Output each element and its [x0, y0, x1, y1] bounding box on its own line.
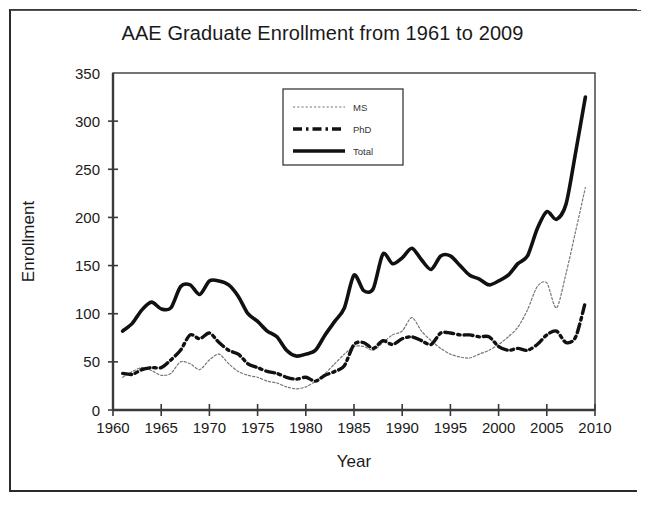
x-tick-label: 2000: [482, 419, 515, 436]
y-tick-label: 350: [75, 65, 100, 82]
legend-label-phd: PhD: [353, 124, 372, 135]
y-tick-label: 50: [83, 353, 100, 370]
y-tick-label: 200: [75, 209, 100, 226]
y-tick-label: 300: [75, 113, 100, 130]
x-tick-label: 1960: [96, 419, 129, 436]
y-tick-label: 100: [75, 305, 100, 322]
x-tick-label: 1990: [386, 419, 419, 436]
legend-label-total: Total: [353, 146, 373, 157]
legend-label-ms: MS: [353, 102, 367, 113]
y-tick-label: 0: [92, 402, 100, 419]
y-axis-ticks: 050100150200250300350: [75, 65, 118, 419]
y-tick-label: 150: [75, 257, 100, 274]
x-tick-label: 2005: [530, 419, 563, 436]
legend-box: [283, 89, 403, 165]
x-axis-title: Year: [337, 452, 372, 471]
chart-plot-svg: 050100150200250300350 196019651970197519…: [0, 0, 645, 500]
x-tick-label: 1985: [337, 419, 370, 436]
x-tick-label: 1965: [145, 419, 178, 436]
series-line-phd: [123, 302, 586, 381]
chart-figure: AAE Graduate Enrollment from 1961 to 200…: [0, 0, 645, 500]
y-axis-title: Enrollment: [19, 201, 38, 283]
x-tick-label: 2010: [578, 419, 611, 436]
x-tick-label: 1995: [434, 419, 467, 436]
document-page: AAE Graduate Enrollment from 1961 to 200…: [0, 0, 645, 511]
x-tick-label: 1980: [289, 419, 322, 436]
x-tick-label: 1975: [241, 419, 274, 436]
y-tick-label: 250: [75, 161, 100, 178]
x-tick-label: 1970: [193, 419, 226, 436]
chart-legend: MSPhDTotal: [283, 89, 403, 165]
